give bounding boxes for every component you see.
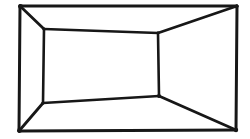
inner-right-edge — [158, 33, 159, 96]
drawing-canvas — [0, 0, 250, 139]
ink-mark-outer-bottom-left — [17, 128, 22, 133]
ink-mark-inner-top-right — [157, 32, 160, 35]
outer-left-edge — [19, 6, 20, 131]
perspective-box-figure — [0, 0, 250, 139]
ink-mark-inner-bottom-right — [157, 94, 161, 98]
inner-left-edge — [43, 29, 44, 103]
outer-right-edge — [236, 6, 237, 130]
outer-bottom-edge — [19, 130, 236, 131]
ink-mark-outer-top-right — [235, 5, 239, 9]
ink-mark-outer-bottom-right — [234, 128, 238, 132]
ink-mark-inner-top-left — [43, 28, 46, 31]
ink-mark-outer-top-left — [18, 4, 23, 9]
ink-mark-inner-bottom-left — [41, 101, 44, 104]
